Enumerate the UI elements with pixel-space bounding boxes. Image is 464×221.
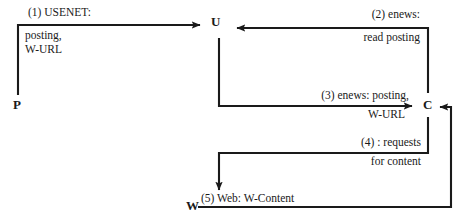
edge-3-label-body: W-URL bbox=[270, 108, 405, 122]
edge-4-label-line-2: for content bbox=[295, 155, 421, 169]
node-label-w: W bbox=[186, 199, 199, 212]
edge-2-label-line-2: read posting bbox=[286, 31, 420, 45]
edge-5-label-line-1: (5) Web: W-Content bbox=[201, 192, 294, 206]
edge-1-label-line-3: W-URL bbox=[25, 43, 62, 57]
edge-1-label-line-1: (1) USENET: bbox=[28, 6, 91, 20]
edge-3-label-head: (3) enews: posting, bbox=[270, 89, 409, 103]
edge-4-label-line-1: (4) : requests bbox=[295, 136, 421, 150]
edge-1-label-head: (1) USENET: bbox=[28, 6, 91, 20]
edge-4-path bbox=[219, 117, 428, 190]
edge-2-label-head: (2) enews: bbox=[286, 8, 420, 22]
edge-1-label-line-2: posting, bbox=[25, 29, 62, 43]
edge-2-label-body: read posting bbox=[286, 31, 420, 45]
edge-4-label-body: for content bbox=[295, 155, 421, 169]
edge-2-label-line-1: (2) enews: bbox=[286, 8, 420, 22]
diagram-canvas: P U C W (1) USENET: posting, W-URL (2) e… bbox=[0, 0, 464, 221]
edge-1-label-body: posting, W-URL bbox=[25, 29, 62, 56]
edge-4-label-head: (4) : requests bbox=[295, 136, 421, 150]
node-label-c: C bbox=[423, 98, 432, 111]
node-label-u: U bbox=[211, 15, 220, 28]
edge-5-label-head: (5) Web: W-Content bbox=[201, 192, 294, 206]
node-label-p: P bbox=[13, 98, 21, 111]
edge-3-label-line-2: W-URL bbox=[270, 108, 405, 122]
edge-3-label-line-1: (3) enews: posting, bbox=[270, 89, 409, 103]
